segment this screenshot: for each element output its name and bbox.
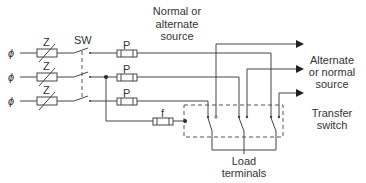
fuse-f: f	[153, 107, 173, 125]
phase-label-1: ϕ	[8, 47, 14, 59]
normal-source-label-3: source	[160, 30, 193, 42]
svg-text:SW: SW	[74, 34, 92, 46]
normal-source-label-2: alternate	[156, 18, 199, 30]
diagram-canvas: ϕ ϕ ϕ Z Z Z SW P	[0, 0, 366, 183]
phase-label-3: ϕ	[8, 95, 14, 107]
fuse-p2: P	[117, 63, 137, 81]
switch-sw: SW	[74, 34, 92, 102]
svg-text:Z: Z	[43, 60, 50, 72]
transfer-switch-box	[184, 105, 283, 137]
alternate-source-label-1: Alternate	[310, 54, 354, 66]
alternate-source-label-2: or normal	[309, 66, 355, 78]
impedance-z1: Z	[37, 36, 57, 62]
impedance-z2: Z	[37, 60, 57, 86]
transfer-switch-poles	[207, 116, 280, 131]
svg-text:f: f	[161, 107, 165, 119]
fuse-p3: P	[117, 87, 137, 105]
phase-label-2: ϕ	[8, 71, 14, 83]
transfer-switch-label-2: switch	[317, 119, 348, 131]
alternate-source-label-3: source	[315, 78, 348, 90]
svg-text:Z: Z	[43, 84, 50, 96]
load-terminals-label-2: terminals	[222, 167, 267, 179]
normal-source-label-1: Normal or	[153, 5, 202, 17]
load-terminals-label-1: Load	[232, 155, 256, 167]
impedance-z3: Z	[37, 84, 57, 110]
svg-text:P: P	[123, 63, 130, 75]
svg-text:P: P	[123, 39, 130, 51]
svg-text:Z: Z	[43, 36, 50, 48]
transfer-switch-label-1: Transfer	[312, 107, 353, 119]
transfer-switch-diagram: ϕ ϕ ϕ Z Z Z SW P	[0, 0, 366, 183]
svg-text:P: P	[123, 87, 130, 99]
fuse-p1: P	[117, 39, 137, 57]
